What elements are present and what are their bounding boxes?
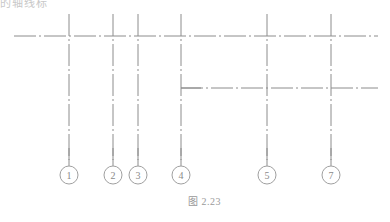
figure-caption: 图 2.23 — [188, 193, 221, 208]
axis-number-label: 1 — [67, 170, 72, 181]
axis-grid-diagram: 123457 — [0, 0, 390, 222]
axis-number-label: 7 — [329, 170, 334, 181]
axis-number-label: 2 — [111, 170, 116, 181]
axis-label-bubbles: 123457 — [60, 166, 340, 184]
axis-number-label: 4 — [179, 170, 184, 181]
axis-number-label: 5 — [265, 170, 270, 181]
vertical-axis-lines — [69, 14, 331, 166]
axis-number-label: 3 — [136, 170, 141, 181]
